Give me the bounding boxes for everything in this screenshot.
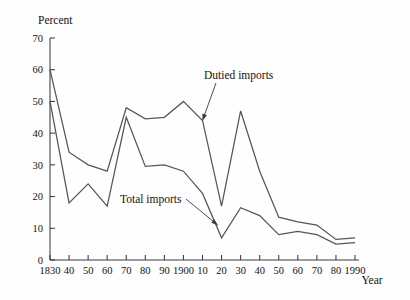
data-series-group [50, 70, 355, 244]
x-tick-label: 10 [197, 265, 208, 276]
annotation-arrowhead-dutied-imports [202, 114, 207, 121]
tariff-line-chart: Percent Year 010203040506070 18304050607… [0, 0, 410, 300]
y-axis-tick-labels: 010203040506070 [33, 33, 44, 266]
y-tick-label: 60 [33, 64, 44, 75]
y-tick-label: 10 [33, 223, 44, 234]
y-axis-title: Percent [38, 14, 73, 26]
x-tick-label: 80 [140, 265, 151, 276]
x-tick-label: 1990 [345, 265, 366, 276]
x-axis-ticks [50, 255, 355, 260]
x-tick-label: 70 [121, 265, 132, 276]
x-tick-label: 1900 [173, 265, 194, 276]
annotation-label-total-imports: Total imports [120, 193, 182, 206]
annotation-label-dutied-imports: Dutied imports [204, 69, 274, 82]
x-tick-label: 30 [235, 265, 246, 276]
x-tick-label: 40 [254, 265, 265, 276]
x-tick-label: 60 [293, 265, 304, 276]
x-axis-tick-labels: 1830405060708090190010203040506070801990 [40, 265, 366, 276]
y-tick-label: 30 [33, 160, 44, 171]
x-tick-label: 90 [159, 265, 170, 276]
x-tick-label: 50 [274, 265, 285, 276]
x-tick-label: 60 [102, 265, 113, 276]
x-tick-label: 20 [216, 265, 227, 276]
y-tick-label: 40 [33, 128, 44, 139]
x-tick-label: 1830 [40, 265, 61, 276]
annotation-total-imports: Total imports [120, 193, 218, 225]
x-tick-label: 80 [331, 265, 342, 276]
y-tick-label: 70 [33, 33, 44, 44]
chart-container: Percent Year 010203040506070 18304050607… [0, 0, 410, 300]
y-tick-label: 50 [33, 96, 44, 107]
x-tick-label: 70 [312, 265, 323, 276]
x-tick-label: 50 [83, 265, 94, 276]
annotation-dutied-imports: Dutied imports [202, 69, 273, 120]
x-tick-label: 40 [64, 265, 75, 276]
y-tick-label: 20 [33, 191, 44, 202]
series-line-dutied-imports [50, 70, 355, 240]
